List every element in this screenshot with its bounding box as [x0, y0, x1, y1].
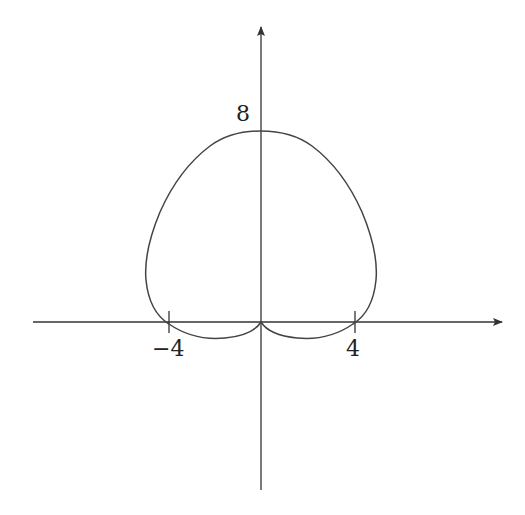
polar-curve-figure — [0, 0, 525, 515]
label-x-neg4: −4 — [152, 338, 184, 360]
label-y-8: 8 — [236, 103, 250, 125]
label-x-pos4: 4 — [346, 338, 360, 360]
